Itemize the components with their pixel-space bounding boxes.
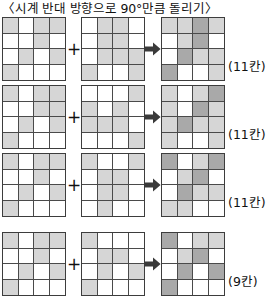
grid-cell[interactable]	[50, 18, 66, 34]
grid-cell[interactable]	[3, 249, 19, 265]
grid-cell[interactable]	[34, 154, 50, 170]
grid-cell[interactable]	[178, 249, 194, 265]
result-grid[interactable]	[161, 17, 225, 81]
grid-cell[interactable]	[209, 102, 225, 118]
grid-cell[interactable]	[34, 133, 50, 149]
grid-cell[interactable]	[98, 170, 114, 186]
grid-cell[interactable]	[193, 264, 209, 280]
grid-cell[interactable]	[3, 49, 19, 65]
grid-cell[interactable]	[113, 233, 129, 249]
grid-cell[interactable]	[162, 117, 178, 133]
grid-cell[interactable]	[162, 86, 178, 102]
grid-cell[interactable]	[34, 185, 50, 201]
grid-cell[interactable]	[113, 201, 129, 217]
grid-cell[interactable]	[162, 133, 178, 149]
grid-cell[interactable]	[34, 264, 50, 280]
grid-cell[interactable]	[129, 34, 145, 50]
grid-cell[interactable]	[193, 102, 209, 118]
grid-cell[interactable]	[209, 65, 225, 81]
grid-cell[interactable]	[82, 154, 98, 170]
grid-cell[interactable]	[19, 170, 35, 186]
grid-cell[interactable]	[162, 65, 178, 81]
grid-cell[interactable]	[178, 18, 194, 34]
grid-cell[interactable]	[209, 117, 225, 133]
grid-cell[interactable]	[3, 280, 19, 296]
grid-cell[interactable]	[34, 201, 50, 217]
grid-cell[interactable]	[193, 233, 209, 249]
grid-cell[interactable]	[82, 264, 98, 280]
grid-cell[interactable]	[209, 249, 225, 265]
grid-cell[interactable]	[82, 18, 98, 34]
operand-a-grid[interactable]	[2, 17, 66, 81]
grid-cell[interactable]	[50, 34, 66, 50]
grid-cell[interactable]	[34, 102, 50, 118]
grid-cell[interactable]	[178, 49, 194, 65]
grid-cell[interactable]	[98, 280, 114, 296]
grid-cell[interactable]	[162, 154, 178, 170]
operand-b-grid[interactable]	[81, 85, 145, 149]
grid-cell[interactable]	[19, 102, 35, 118]
grid-cell[interactable]	[82, 185, 98, 201]
grid-cell[interactable]	[113, 86, 129, 102]
grid-cell[interactable]	[3, 170, 19, 186]
grid-cell[interactable]	[19, 133, 35, 149]
result-grid[interactable]	[161, 153, 225, 217]
grid-cell[interactable]	[82, 201, 98, 217]
operand-a-grid[interactable]	[2, 153, 66, 217]
grid-cell[interactable]	[209, 133, 225, 149]
grid-cell[interactable]	[113, 49, 129, 65]
grid-cell[interactable]	[3, 154, 19, 170]
grid-cell[interactable]	[193, 249, 209, 265]
grid-cell[interactable]	[209, 34, 225, 50]
grid-cell[interactable]	[129, 170, 145, 186]
grid-cell[interactable]	[19, 280, 35, 296]
grid-cell[interactable]	[3, 65, 19, 81]
grid-cell[interactable]	[34, 249, 50, 265]
grid-cell[interactable]	[193, 185, 209, 201]
grid-cell[interactable]	[178, 117, 194, 133]
grid-cell[interactable]	[129, 102, 145, 118]
grid-cell[interactable]	[162, 249, 178, 265]
grid-cell[interactable]	[82, 170, 98, 186]
grid-cell[interactable]	[98, 185, 114, 201]
grid-cell[interactable]	[113, 185, 129, 201]
grid-cell[interactable]	[129, 154, 145, 170]
grid-cell[interactable]	[129, 65, 145, 81]
grid-cell[interactable]	[82, 49, 98, 65]
grid-cell[interactable]	[98, 154, 114, 170]
grid-cell[interactable]	[113, 280, 129, 296]
grid-cell[interactable]	[82, 280, 98, 296]
grid-cell[interactable]	[50, 280, 66, 296]
grid-cell[interactable]	[98, 18, 114, 34]
grid-cell[interactable]	[34, 65, 50, 81]
grid-cell[interactable]	[193, 34, 209, 50]
grid-cell[interactable]	[209, 233, 225, 249]
grid-cell[interactable]	[98, 249, 114, 265]
grid-cell[interactable]	[34, 280, 50, 296]
grid-cell[interactable]	[162, 170, 178, 186]
grid-cell[interactable]	[82, 65, 98, 81]
grid-cell[interactable]	[162, 264, 178, 280]
grid-cell[interactable]	[50, 249, 66, 265]
grid-cell[interactable]	[193, 86, 209, 102]
operand-b-grid[interactable]	[81, 232, 145, 296]
grid-cell[interactable]	[193, 133, 209, 149]
grid-cell[interactable]	[129, 201, 145, 217]
grid-cell[interactable]	[113, 154, 129, 170]
grid-cell[interactable]	[193, 201, 209, 217]
grid-cell[interactable]	[50, 233, 66, 249]
grid-cell[interactable]	[50, 86, 66, 102]
grid-cell[interactable]	[178, 201, 194, 217]
grid-cell[interactable]	[50, 170, 66, 186]
result-grid[interactable]	[161, 232, 225, 296]
grid-cell[interactable]	[98, 34, 114, 50]
grid-cell[interactable]	[162, 233, 178, 249]
grid-cell[interactable]	[209, 201, 225, 217]
grid-cell[interactable]	[178, 65, 194, 81]
grid-cell[interactable]	[3, 264, 19, 280]
grid-cell[interactable]	[34, 170, 50, 186]
grid-cell[interactable]	[209, 86, 225, 102]
grid-cell[interactable]	[82, 233, 98, 249]
grid-cell[interactable]	[113, 133, 129, 149]
grid-cell[interactable]	[178, 170, 194, 186]
